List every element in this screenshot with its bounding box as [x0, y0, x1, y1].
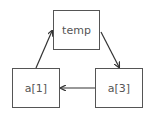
node-temp: temp	[53, 10, 100, 50]
node-a1-label: a[1]	[25, 82, 47, 95]
arrow-a1-to-temp	[36, 31, 52, 68]
node-temp-label: temp	[62, 24, 91, 37]
node-a1: a[1]	[12, 68, 60, 108]
node-a3-label: a[3]	[108, 82, 130, 95]
node-a3: a[3]	[95, 68, 143, 108]
arrow-temp-to-a3	[101, 32, 119, 67]
